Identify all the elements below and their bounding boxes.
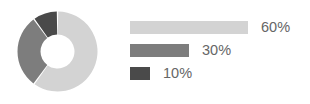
legend-item-60[interactable]: 60% (130, 20, 290, 34)
donut-slice-group (17, 12, 97, 92)
legend-swatch-bar-10 (130, 67, 150, 80)
legend-label-10: 10% (163, 66, 192, 80)
legend-swatch-bar-60 (130, 21, 248, 34)
legend-swatch-bar-30 (130, 44, 189, 57)
chart-legend: 60% 30% 10% (130, 18, 310, 88)
legend-label-60: 60% (261, 20, 290, 34)
legend-item-10[interactable]: 10% (130, 66, 192, 80)
legend-item-30[interactable]: 30% (130, 43, 231, 57)
legend-label-30: 30% (202, 43, 231, 57)
chart-screenshot: 60% 30% 10% (0, 0, 310, 104)
donut-chart (17, 11, 98, 92)
donut-chart-svg (17, 11, 98, 92)
